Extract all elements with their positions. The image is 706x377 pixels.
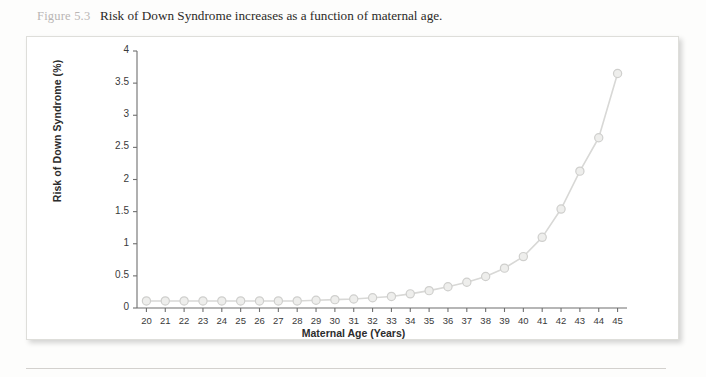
y-axis-tick-label: 2: [91, 173, 129, 184]
data-point-marker: [595, 134, 603, 142]
y-axis-tick-label: 2.5: [91, 140, 129, 151]
data-point-marker: [519, 253, 527, 261]
data-point-marker: [482, 272, 490, 280]
figure-caption-text: Risk of Down Syndrome increases as a fun…: [100, 8, 442, 24]
data-point-marker: [387, 292, 395, 300]
data-point-marker: [218, 297, 226, 305]
data-point-marker: [538, 233, 546, 241]
y-axis-tick-label: 1.5: [91, 205, 129, 216]
data-point-marker: [406, 290, 414, 298]
data-point-marker: [199, 297, 207, 305]
data-point-marker: [237, 297, 245, 305]
data-point-marker: [255, 297, 263, 305]
y-axis-tick-label: 0.5: [91, 269, 129, 280]
data-point-marker: [444, 283, 452, 291]
y-axis-tick-label: 4: [91, 44, 129, 55]
y-axis-title: Risk of Down Syndrome (%): [51, 51, 63, 211]
data-point-marker: [331, 296, 339, 304]
data-point-marker: [557, 205, 565, 213]
data-point-marker: [180, 297, 188, 305]
data-point-marker: [274, 297, 282, 305]
series-line: [146, 73, 617, 300]
figure-panel: Risk of Down Syndrome (%) Maternal Age (…: [26, 36, 679, 340]
data-point-marker: [293, 297, 301, 305]
x-axis-title: Maternal Age (Years): [27, 327, 680, 339]
data-point-marker: [368, 294, 376, 302]
data-point-marker: [613, 69, 621, 77]
data-point-marker: [161, 297, 169, 305]
x-axis-tick-label: 45: [606, 315, 630, 326]
data-point-marker: [500, 264, 508, 272]
data-point-marker: [425, 287, 433, 295]
y-axis-tick-label: 3.5: [91, 76, 129, 87]
figure-caption-row: Figure 5.3 Risk of Down Syndrome increas…: [0, 0, 706, 30]
figure-number-label: Figure 5.3: [37, 9, 90, 24]
data-point-marker: [576, 167, 584, 175]
page-bottom-rule: [26, 368, 666, 369]
data-point-marker: [142, 297, 150, 305]
y-axis-tick-label: 0: [91, 301, 129, 312]
data-point-marker: [463, 278, 471, 286]
y-axis-tick-label: 3: [91, 108, 129, 119]
data-point-marker: [350, 295, 358, 303]
data-point-marker: [312, 296, 320, 304]
chart-plot-area: Risk of Down Syndrome (%) Maternal Age (…: [27, 37, 680, 341]
y-axis-tick-label: 1: [91, 237, 129, 248]
